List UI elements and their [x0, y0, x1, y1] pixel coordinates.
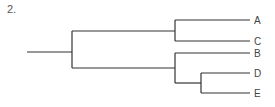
leaf-label-a: A	[254, 15, 261, 26]
leaf-label-b: B	[254, 48, 261, 59]
phylogenetic-tree: A C B D E	[0, 0, 275, 107]
leaf-label-c: C	[254, 36, 261, 47]
leaf-label-d: D	[254, 68, 261, 79]
leaf-label-e: E	[254, 88, 261, 99]
